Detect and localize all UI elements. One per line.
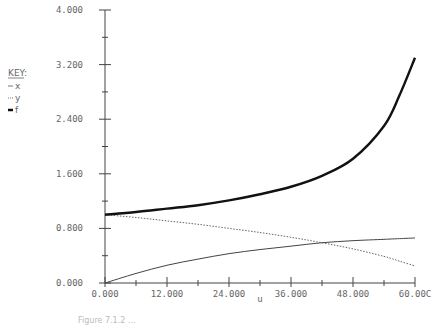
chart: 0.0000.8001.6002.4003.2004.0000.00012.00… <box>0 0 439 327</box>
y-tick-label: 1.600 <box>56 169 83 179</box>
y-tick-label: 4.000 <box>56 5 83 15</box>
legend: KEY: x y f <box>8 68 27 115</box>
x-tick-label: 48.000 <box>337 289 370 299</box>
plot-area: 0.0000.8001.6002.4003.2004.0000.00012.00… <box>0 0 439 327</box>
x-tick-label: 60.00C <box>399 289 432 299</box>
axes <box>99 10 415 287</box>
legend-label-y: y <box>15 93 21 103</box>
series-x-line <box>105 238 415 283</box>
y-tick-label: 0.800 <box>56 223 83 233</box>
x-tick-label: 12.000 <box>151 289 184 299</box>
legend-title: KEY: <box>8 68 27 78</box>
curves <box>105 58 415 283</box>
x-tick-label: 0.000 <box>91 289 118 299</box>
x-axis-label: u <box>257 294 262 304</box>
x-tick-label: 36.000 <box>275 289 308 299</box>
legend-label-f: f <box>15 105 19 115</box>
x-tick-label: 24.000 <box>213 289 246 299</box>
y-tick-label: 3.200 <box>56 60 83 70</box>
legend-label-x: x <box>15 81 21 91</box>
y-tick-label: 2.400 <box>56 114 83 124</box>
y-tick-label: 0.000 <box>56 278 83 288</box>
series-f-line <box>105 58 415 215</box>
figure-caption: Figure 7.1.2 ... <box>78 316 136 325</box>
tick-labels: 0.0000.8001.6002.4003.2004.0000.00012.00… <box>56 5 431 299</box>
